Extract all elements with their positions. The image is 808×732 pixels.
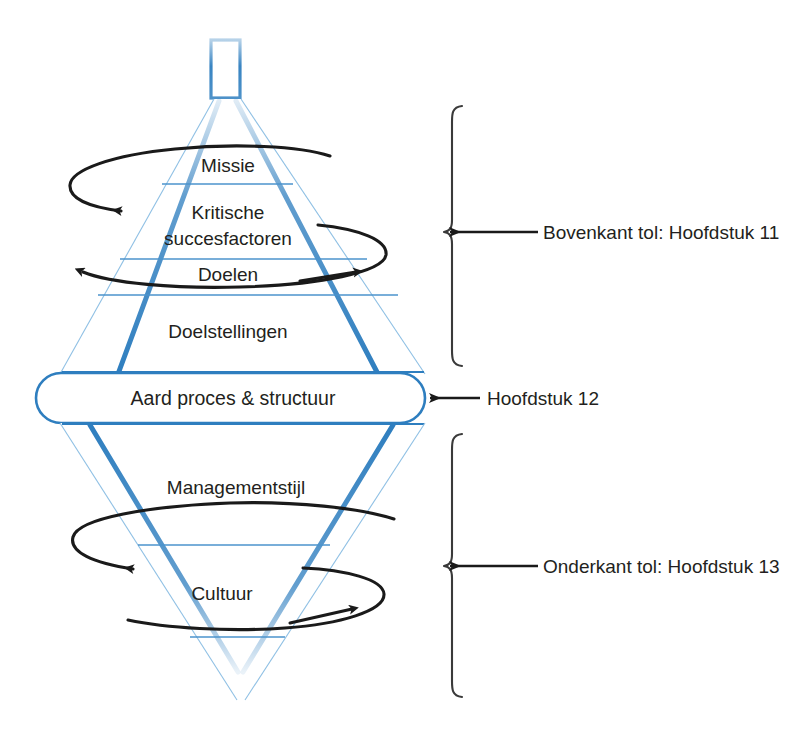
annotation-label-bovenkant-tol: Bovenkant tol: Hoofdstuk 11: [543, 222, 779, 243]
tier-label-doelen: Doelen: [198, 264, 258, 285]
tier-label-missie: Missie: [201, 155, 255, 176]
lower-cone: [60, 423, 425, 700]
bracket-upper: [444, 106, 462, 366]
annotation-onderkant-tol: Onderkant tol: Hoofdstuk 13: [444, 434, 780, 697]
tier-label-kritische-succesfactoren-line2: succesfactoren: [164, 228, 292, 249]
annotation-label-onderkant-tol: Onderkant tol: Hoofdstuk 13: [543, 556, 780, 577]
tier-label-cultuur: Cultuur: [191, 583, 253, 604]
annotation-label-hoofdstuk-12: Hoofdstuk 12: [487, 388, 599, 409]
tol-tip-icon: [211, 40, 240, 98]
annotation-bovenkant-tol: Bovenkant tol: Hoofdstuk 11: [444, 106, 779, 366]
middle-band-label: Aard proces & structuur: [131, 387, 336, 409]
tier-label-managementstijl: Managementstijl: [167, 477, 305, 498]
tier-label-doelstellingen: Doelstellingen: [168, 321, 287, 342]
tier-label-kritische-succesfactoren-line1: Kritische: [192, 202, 265, 223]
tol-model-diagram: Aard proces & structuur Miss: [0, 0, 808, 732]
middle-band: Aard proces & structuur: [36, 373, 425, 423]
tol-tip-rect: [211, 40, 240, 98]
diagram-canvas: Aard proces & structuur Miss: [0, 0, 808, 732]
annotation-hoofdstuk-12: Hoofdstuk 12: [430, 388, 599, 409]
